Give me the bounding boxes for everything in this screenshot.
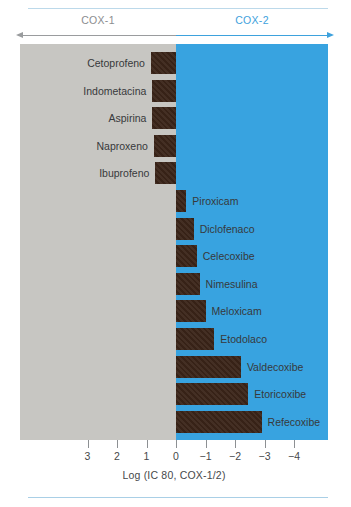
x-tick [265,440,266,448]
bar-etodolaco [176,328,214,350]
x-axis: 3210−1−2−3−4 [0,440,351,470]
arrow-right-head-icon [327,32,334,38]
cox2-range-arrow [176,35,328,36]
bar-aspirina [152,107,176,129]
x-tick [206,440,207,448]
x-tick-label: 0 [161,450,191,462]
bar-label-cetoprofeno: Cetoprofeno [55,52,145,74]
bar-etoricoxibe [176,383,248,405]
bar-ibuprofeno [155,162,176,184]
bar-label-diclofenaco: Diclofenaco [200,218,300,240]
bar-diclofenaco [176,218,194,240]
cox2-shaded-region [176,44,328,440]
x-tick-label: −4 [279,450,309,462]
bar-nimesulina [176,273,200,295]
x-tick [147,440,148,448]
x-tick [235,440,236,448]
bottom-divider-rule [28,497,328,498]
bar-label-meloxicam: Meloxicam [212,300,312,322]
region-header: COX-1 COX-2 [0,14,351,46]
top-divider-rule [28,8,328,9]
bar-label-aspirina: Aspirina [56,107,146,129]
bar-label-indometacina: Indometacina [56,80,146,102]
bar-label-naproxeno: Naproxeno [58,135,148,157]
x-tick-label: −3 [250,450,280,462]
cox-selectivity-figure: COX-1 COX-2 CetoprofenoIndometacinaAspir… [0,0,351,507]
bar-label-refecoxibe: Refecoxibe [268,411,328,433]
bar-label-valdecoxibe: Valdecoxibe [247,356,328,378]
bar-piroxicam [176,190,186,212]
x-tick-label: −1 [191,450,221,462]
x-tick [117,440,118,448]
bar-label-ibuprofeno: Ibuprofeno [59,162,149,184]
bar-label-etodolaco: Etodolaco [220,328,320,350]
bar-label-piroxicam: Piroxicam [192,190,292,212]
cox1-region-label: COX-1 [20,14,176,26]
x-axis-title: Log (IC 80, COX-1/2) [20,469,328,481]
x-tick-label: 1 [132,450,162,462]
cox2-region-label: COX-2 [176,14,328,26]
x-tick [88,440,89,448]
plot-area: CetoprofenoIndometacinaAspirinaNaproxeno… [20,44,328,440]
bar-celecoxibe [176,245,197,267]
bar-indometacina [152,80,176,102]
x-tick [176,440,177,448]
bar-naproxeno [154,135,176,157]
bar-label-nimesulina: Nimesulina [206,273,306,295]
x-tick-label: 2 [102,450,132,462]
bar-meloxicam [176,300,206,322]
x-tick-label: −2 [220,450,250,462]
cox1-range-arrow [22,35,176,36]
bar-cetoprofeno [151,52,176,74]
arrow-left-head-icon [16,32,23,38]
bar-label-celecoxibe: Celecoxibe [203,245,303,267]
x-tick-label: 3 [73,450,103,462]
bar-label-etoricoxibe: Etoricoxibe [254,383,328,405]
bar-valdecoxibe [176,356,241,378]
x-tick [294,440,295,448]
bar-refecoxibe [176,411,262,433]
